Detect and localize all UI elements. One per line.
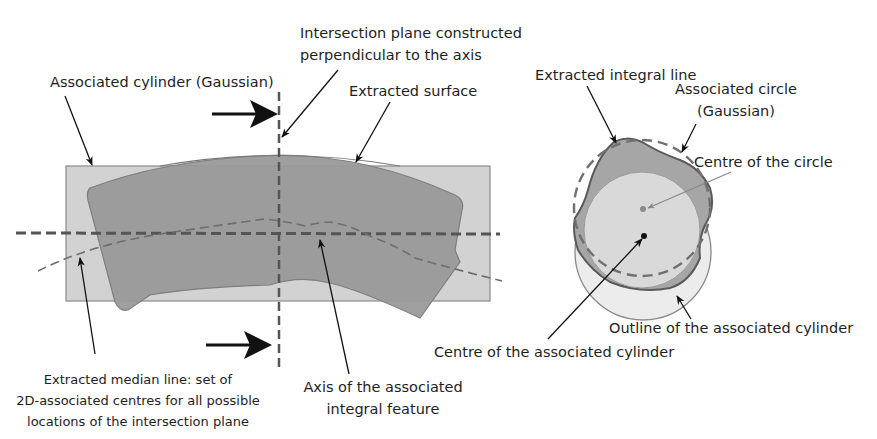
inner-circle-region bbox=[584, 172, 700, 288]
right-view: Extracted integral line Associated circl… bbox=[434, 67, 853, 360]
label-axis-1: Axis of the associated bbox=[303, 379, 462, 395]
label-intersection-plane-2: perpendicular to the axis bbox=[300, 47, 482, 63]
label-associated-circle-2: (Gaussian) bbox=[697, 103, 775, 119]
leader-associated-cylinder bbox=[65, 96, 92, 165]
label-median-line-3: locations of the intersection plane bbox=[27, 414, 249, 429]
leader-extracted-integral-line bbox=[587, 86, 616, 143]
leader-associated-circle bbox=[682, 124, 696, 152]
section-arrow-top bbox=[212, 100, 278, 128]
label-median-line-1: Extracted median line: set of bbox=[44, 372, 233, 387]
label-axis-2: integral feature bbox=[327, 401, 440, 417]
label-extracted-surface: Extracted surface bbox=[349, 83, 477, 99]
left-view: Associated cylinder (Gaussian) Intersect… bbox=[16, 25, 522, 429]
label-associated-circle-1: Associated circle bbox=[675, 81, 797, 97]
label-extracted-integral-line: Extracted integral line bbox=[535, 67, 696, 83]
label-associated-cylinder: Associated cylinder (Gaussian) bbox=[50, 74, 274, 90]
centre-of-circle-dot bbox=[640, 206, 646, 212]
label-centre-cylinder: Centre of the associated cylinder bbox=[434, 344, 674, 360]
cylinder-diagram: Associated cylinder (Gaussian) Intersect… bbox=[0, 0, 877, 439]
leader-intersection-plane bbox=[282, 70, 338, 137]
label-median-line-2: 2D-associated centres for all possible bbox=[16, 393, 260, 408]
label-intersection-plane-1: Intersection plane constructed bbox=[300, 25, 522, 41]
centre-of-cylinder-dot bbox=[641, 233, 647, 239]
label-outline-cylinder: Outline of the associated cylinder bbox=[609, 320, 853, 336]
leader-extracted-surface bbox=[356, 102, 390, 162]
label-centre-of-circle: Centre of the circle bbox=[694, 154, 833, 170]
section-arrow-bottom bbox=[206, 331, 272, 359]
